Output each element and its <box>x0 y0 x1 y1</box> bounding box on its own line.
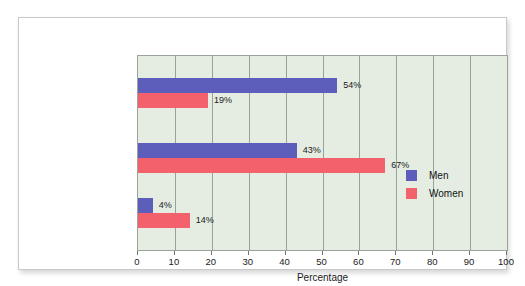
bar-men-0 <box>138 78 337 93</box>
chart-legend: Men Women <box>406 166 463 202</box>
legend-item-women[interactable]: Women <box>406 184 463 202</box>
gridline-100 <box>507 56 508 250</box>
bar-value-label-men-2: 4% <box>159 198 172 213</box>
x-tick-0 <box>137 251 138 255</box>
x-tick-80 <box>432 251 433 255</box>
x-tick-label-80: 80 <box>427 256 438 267</box>
x-axis: 0102030405060708090100 Percentage <box>137 251 508 286</box>
bar-women-2 <box>138 213 190 228</box>
x-axis-title: Percentage <box>137 272 508 283</box>
gridline-70 <box>396 56 397 250</box>
chart-card: “Every day” or “Several times a day”“A f… <box>18 17 507 270</box>
legend-swatch-men-icon <box>406 170 417 181</box>
x-tick-40 <box>285 251 286 255</box>
bar-value-label-women-2: 14% <box>196 213 214 228</box>
x-tick-label-0: 0 <box>134 256 139 267</box>
x-tick-10 <box>174 251 175 255</box>
x-tick-label-90: 90 <box>464 256 475 267</box>
gridline-90 <box>470 56 471 250</box>
bar-value-label-men-0: 54% <box>343 78 361 93</box>
x-tick-30 <box>248 251 249 255</box>
x-tick-label-50: 50 <box>316 256 327 267</box>
x-tick-label-10: 10 <box>169 256 180 267</box>
bar-women-1 <box>138 158 385 173</box>
x-tick-90 <box>469 251 470 255</box>
x-tick-label-20: 20 <box>206 256 217 267</box>
legend-label-men: Men <box>429 170 448 181</box>
x-tick-label-40: 40 <box>279 256 290 267</box>
legend-item-men[interactable]: Men <box>406 166 463 184</box>
x-tick-60 <box>358 251 359 255</box>
chart-figure: “Every day” or “Several times a day”“A f… <box>0 0 525 286</box>
bar-value-label-women-0: 19% <box>214 93 232 108</box>
x-tick-20 <box>211 251 212 255</box>
bar-men-2 <box>138 198 153 213</box>
x-tick-label-70: 70 <box>390 256 401 267</box>
x-tick-label-100: 100 <box>498 256 514 267</box>
x-tick-label-30: 30 <box>242 256 253 267</box>
gridline-80 <box>433 56 434 250</box>
bar-women-0 <box>138 93 208 108</box>
plot-area: 54%19%43%67%4%14% Men Women <box>137 55 508 251</box>
bar-men-1 <box>138 143 297 158</box>
x-tick-label-60: 60 <box>353 256 364 267</box>
x-tick-50 <box>322 251 323 255</box>
legend-swatch-women-icon <box>406 188 417 199</box>
legend-label-women: Women <box>429 188 463 199</box>
x-tick-100 <box>506 251 507 255</box>
bar-value-label-men-1: 43% <box>303 143 321 158</box>
x-tick-70 <box>395 251 396 255</box>
